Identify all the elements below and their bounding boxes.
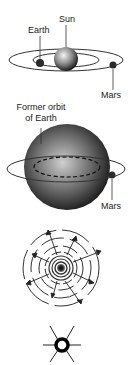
panel-red-giant bbox=[7, 124, 125, 210]
white-dwarf-center bbox=[60, 343, 64, 347]
label-earth: Earth bbox=[28, 25, 50, 35]
sun-sphere bbox=[54, 47, 78, 71]
label-former-orbit-line1: Former orbit bbox=[12, 102, 70, 112]
panel-planetary-nebula bbox=[23, 230, 101, 306]
red-giant-sphere bbox=[24, 124, 110, 210]
earth-planet bbox=[36, 59, 44, 67]
diagram-canvas bbox=[0, 0, 132, 365]
mars-planet-2 bbox=[109, 172, 116, 179]
panel-white-dwarf bbox=[43, 326, 81, 362]
label-mars: Mars bbox=[101, 90, 121, 100]
label-sun: Sun bbox=[59, 14, 75, 24]
nebula-core bbox=[57, 264, 65, 272]
label-mars-2: Mars bbox=[101, 201, 121, 211]
mars-planet bbox=[110, 62, 117, 69]
panel-solar-system bbox=[9, 25, 123, 90]
label-former-orbit-line2: of Earth bbox=[12, 113, 70, 123]
